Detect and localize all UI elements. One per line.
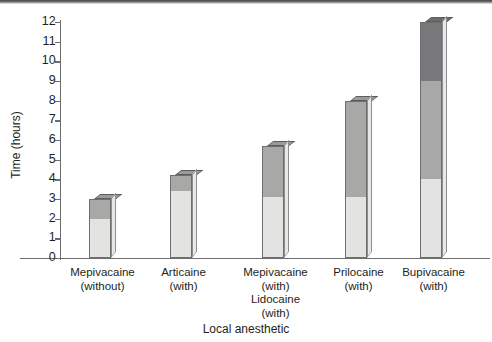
bar-side-face	[111, 193, 116, 258]
bar-segment	[262, 146, 284, 197]
y-axis-tick-label: 3	[28, 192, 56, 204]
bar-top-face	[267, 141, 295, 146]
bar-side-face	[442, 16, 447, 258]
category-label-line: (with)	[376, 280, 492, 294]
bar-1	[89, 199, 111, 258]
bar-segment	[420, 81, 442, 179]
bar-side-face	[192, 169, 197, 258]
y-axis-line	[60, 20, 61, 260]
y-axis-tick-label: 9	[28, 74, 56, 86]
bar-segment	[170, 191, 192, 258]
bar-4	[345, 101, 367, 258]
bar-segment	[420, 179, 442, 258]
y-axis-tick-label: 7	[28, 113, 56, 125]
x-axis-line	[20, 258, 490, 259]
y-axis-tick-label: 5	[28, 153, 56, 165]
category-label-line: Lidocaine	[218, 293, 334, 307]
y-axis-label: Time (hours)	[9, 85, 23, 205]
bar-side-face	[367, 94, 372, 258]
y-axis-tick-label: 6	[28, 133, 56, 145]
bar-segment	[89, 219, 111, 258]
bar-top-face	[350, 96, 378, 101]
bar-top-face	[175, 170, 203, 175]
y-axis-tick-label: 4	[28, 172, 56, 184]
bar-segment	[262, 197, 284, 258]
x-axis-label: Local anesthetic	[0, 322, 492, 336]
bar-top-face	[94, 194, 122, 199]
bar-top-face	[425, 17, 453, 22]
y-axis-tick-label: 12	[28, 15, 56, 27]
category-label-line: (with)	[218, 307, 334, 321]
y-axis-tick-label: 1	[28, 231, 56, 243]
y-axis-tick-label: 11	[28, 35, 56, 47]
y-axis-tick-label: 0	[28, 251, 56, 263]
y-axis-tick-label: 8	[28, 94, 56, 106]
bar-segment	[170, 175, 192, 191]
bar-5	[420, 22, 442, 258]
category-label-5: Bupivacaine(with)	[376, 266, 492, 293]
bar-segment	[89, 199, 111, 219]
bar-segment	[345, 197, 367, 258]
category-label-line: Bupivacaine	[376, 266, 492, 280]
bar-segment	[420, 22, 442, 81]
bar-2	[170, 175, 192, 258]
y-axis-tick-label: 2	[28, 212, 56, 224]
bar-side-face	[284, 140, 289, 258]
bar-3	[262, 146, 284, 258]
bar-segment	[345, 101, 367, 197]
y-axis-tick-label: 10	[28, 54, 56, 66]
bar-chart: 0123456789101112 Time (hours) Mepivacain…	[0, 0, 492, 342]
